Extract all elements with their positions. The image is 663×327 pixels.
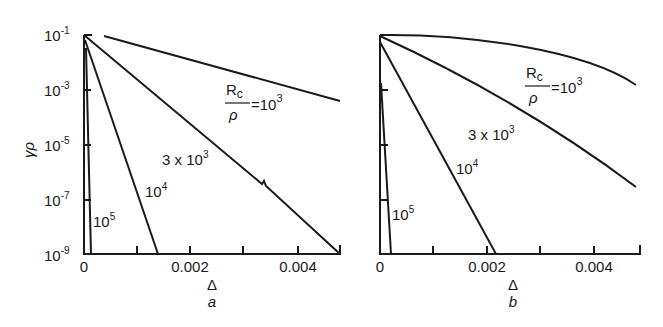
svg-text:10-7: 10-7 (44, 190, 70, 209)
x-ticks (433, 246, 594, 254)
svg-text:10-9: 10-9 (44, 245, 70, 264)
x-axis-label: Δ (508, 276, 518, 293)
annotation-rc-3e3: 3 x 103 (468, 124, 515, 143)
svg-text:0.004: 0.004 (575, 258, 613, 275)
panel-label-a: a (208, 293, 216, 310)
svg-text:10-5: 10-5 (44, 135, 70, 154)
panel-a: 10-1 10-3 10-5 10-7 10-9 γρ 0 0.002 0.00… (20, 25, 340, 310)
svg-text:10-3: 10-3 (44, 80, 70, 99)
x-axis-label: Δ (207, 276, 217, 293)
curve-rc-1e3 (380, 35, 636, 85)
svg-text:ρ: ρ (228, 106, 238, 123)
annotation-rc-1e3: Rc ρ =103 (225, 81, 283, 123)
annotation-rc-1e5: 105 (392, 204, 415, 223)
svg-text:0.002: 0.002 (468, 258, 506, 275)
svg-text:0.004: 0.004 (279, 258, 317, 275)
svg-text:0: 0 (376, 258, 384, 275)
annotation-rc-3e3: 3 x 103 (162, 149, 209, 168)
x-ticks (137, 246, 298, 254)
curve-rc-3e3 (84, 35, 340, 254)
svg-text:=103: =103 (551, 75, 583, 96)
annotation-rc-1e4: 104 (456, 158, 479, 177)
curve-rc-1e5 (86, 48, 91, 254)
svg-text:0: 0 (80, 258, 88, 275)
annotation-rc-1e5: 105 (93, 211, 116, 230)
svg-text:ρ: ρ (528, 89, 538, 106)
y-axis-label: γρ (20, 142, 37, 159)
panel-b: 0 0.002 0.004 Δ b Rc ρ =103 3 x 103 104 … (376, 35, 640, 310)
annotation-rc-1e3: Rc ρ =103 (525, 64, 583, 106)
svg-text:10-1: 10-1 (44, 25, 70, 44)
svg-text:=103: =103 (251, 92, 283, 113)
svg-text:Rc: Rc (226, 81, 243, 101)
annotation-rc-1e4: 104 (145, 181, 168, 200)
figure: 10-1 10-3 10-5 10-7 10-9 γρ 0 0.002 0.00… (0, 0, 663, 327)
svg-text:Rc: Rc (526, 64, 543, 84)
y-tick-labels: 10-1 10-3 10-5 10-7 10-9 (44, 25, 70, 264)
curve-rc-1e3 (104, 36, 340, 101)
svg-text:0.002: 0.002 (171, 258, 209, 275)
panel-label-b: b (509, 293, 517, 310)
curve-rc-1e5 (381, 83, 391, 254)
